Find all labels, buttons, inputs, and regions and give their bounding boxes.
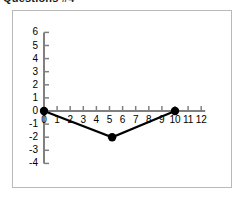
x-axis-tick-label: 12 — [192, 115, 210, 125]
y-axis-tick-label: 5 — [13, 41, 38, 51]
page-title: Questions #4 — [3, 0, 153, 5]
y-axis-tick-label: -3 — [13, 145, 38, 155]
y-axis-tick-label: 3 — [13, 67, 38, 77]
line-chart — [13, 11, 233, 189]
chart-title-strip: Questions #4 — [3, 0, 153, 5]
y-axis-tick-label: 1 — [13, 93, 38, 103]
y-axis-tick-label: 4 — [13, 54, 38, 64]
plot-area: 6543210-1-2-3-40123456789101112 — [13, 11, 233, 189]
data-point-marker — [108, 133, 116, 141]
y-axis-tick-label: -4 — [13, 158, 38, 168]
y-axis-tick-label: 2 — [13, 80, 38, 90]
y-axis-tick-label: 6 — [13, 27, 38, 37]
y-axis-tick-label: -2 — [13, 132, 38, 142]
chart-frame: 6543210-1-2-3-40123456789101112 — [12, 10, 232, 188]
